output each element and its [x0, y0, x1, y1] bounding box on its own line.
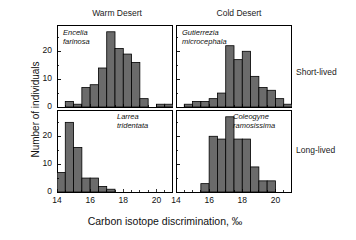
y-axis-tick-labels: 2010020100	[36, 25, 54, 195]
x-tick-label: 14	[168, 195, 184, 205]
row-label-short-lived: Short-lived	[296, 67, 337, 77]
y-tick-label: 10	[36, 73, 52, 83]
x-tick-label: 16	[201, 195, 217, 205]
x-tick-label: 20	[267, 195, 283, 205]
x-tick-label: 16	[82, 195, 98, 205]
x-tick-label: 14	[49, 195, 65, 205]
panel-cold-desert-short-lived: Gutierrezia microcephala	[176, 25, 292, 108]
row-label-long-lived: Long-lived	[296, 145, 335, 155]
figure-root: Warm Desert Cold Desert Short-lived Long…	[0, 0, 356, 240]
y-tick-label: 0	[36, 101, 52, 111]
column-header-warm-desert: Warm Desert	[62, 8, 172, 18]
histogram-cold-long	[176, 110, 292, 193]
panel-warm-desert-short-lived: Encelia farinosa	[57, 25, 173, 108]
column-header-cold-desert: Cold Desert	[184, 8, 294, 18]
y-tick-label: 20	[36, 45, 52, 55]
panel-warm-desert-long-lived: Larrea tridentata	[57, 110, 173, 193]
plot-panel-grid: Encelia farinosa Gutierrezia microcephal…	[57, 25, 292, 193]
panel-cold-desert-long-lived: Coleogyne ramosissima	[176, 110, 292, 193]
histogram-cold-short	[176, 25, 292, 108]
x-tick-label: 18	[115, 195, 131, 205]
x-axis-title: Carbon isotope discrimination, ‰	[0, 215, 330, 227]
y-tick-label: 10	[36, 158, 52, 168]
x-axis-tick-labels: 1416182014161820	[57, 195, 297, 207]
histogram-warm-long	[57, 110, 173, 193]
histogram-warm-short	[57, 25, 173, 108]
y-tick-label: 20	[36, 130, 52, 140]
x-tick-label: 18	[234, 195, 250, 205]
x-tick-label: 20	[148, 195, 164, 205]
